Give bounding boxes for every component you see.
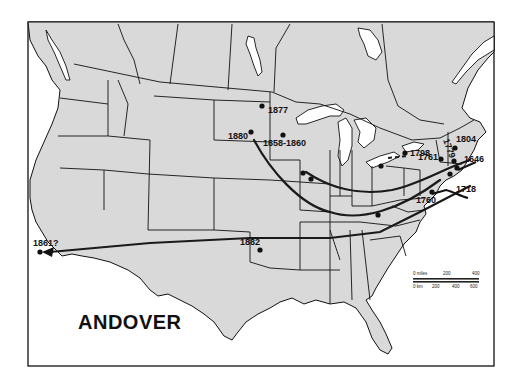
settlement-dot [308, 176, 313, 181]
settlement-year-label: 1718 [456, 184, 476, 194]
settlement-dot [438, 156, 443, 161]
settlement-year-label: 1877 [268, 105, 288, 115]
settlement-dot [452, 145, 457, 150]
settlement-dot [429, 189, 434, 194]
scale-miles-label: 0 miles [413, 271, 428, 276]
settlement-dot [375, 212, 380, 217]
settlement-dot [248, 129, 253, 134]
scale-km-label: 0 km [413, 284, 423, 289]
settlement-dot [257, 247, 262, 252]
settlement-dot [37, 249, 42, 254]
scale-km-600: 600 [470, 284, 478, 289]
settlement-year-label: 1646 [464, 154, 484, 164]
settlement-year-label: 1804 [456, 134, 476, 144]
settlement-year-label: 1880 [228, 131, 248, 141]
settlement-year-label: 1760 [416, 195, 436, 205]
migration-map: 187718801858-186017611779180416461798171… [0, 0, 517, 389]
scale-miles-200: 200 [443, 271, 451, 276]
settlement-dot [454, 165, 459, 170]
settlement-dot [378, 163, 383, 168]
settlement-dot [451, 158, 456, 163]
scale-km-200: 200 [432, 284, 440, 289]
settlement-year-label: 1861? [33, 238, 59, 248]
scale-km-400: 400 [452, 284, 460, 289]
settlement-dot [280, 132, 285, 137]
settlement-dot [447, 171, 452, 176]
settlement-dot [259, 103, 264, 108]
scale-miles-400: 400 [472, 271, 480, 276]
settlement-year-label: 1798 [410, 148, 430, 158]
settlement-dot [300, 170, 305, 175]
settlement-year-label: 1882 [240, 237, 260, 247]
settlement-year-label: 1858-1860 [263, 138, 306, 148]
map-title: ANDOVER [78, 311, 182, 333]
settlement-dot [402, 150, 407, 155]
